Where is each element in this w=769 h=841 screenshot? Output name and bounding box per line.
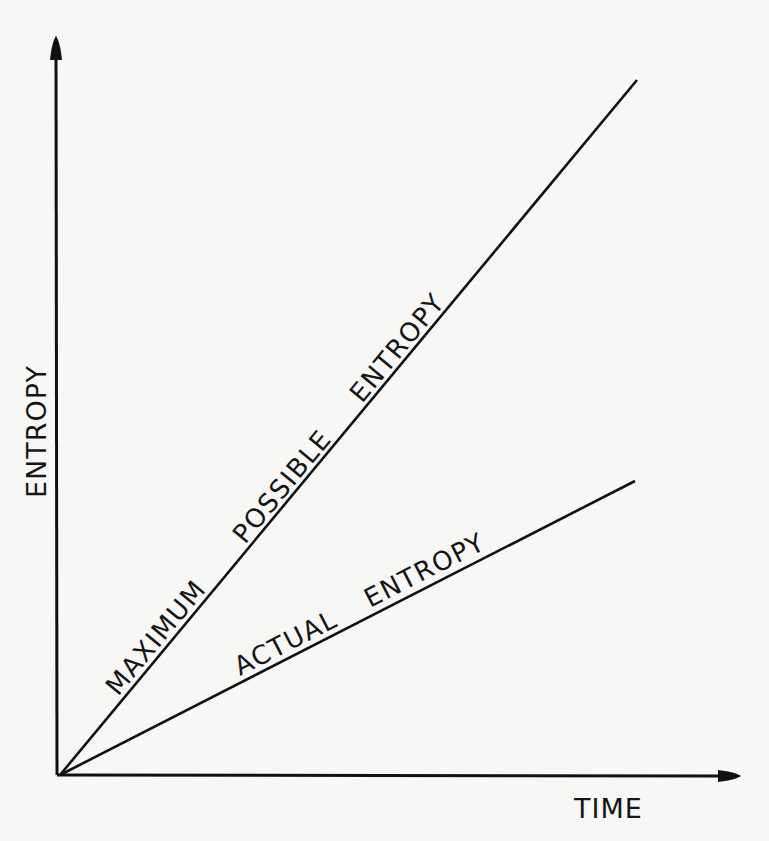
x-axis-arrow-icon xyxy=(718,770,741,782)
entropy-time-chart: ENTROPY TIME MAXIMUM POSSIBLE ENTROPY AC… xyxy=(0,0,769,841)
y-axis-arrow-icon xyxy=(50,36,62,60)
actual-line-label-actual: ACTUAL xyxy=(229,604,342,682)
max-line-label-maximum: MAXIMUM xyxy=(100,574,213,701)
y-axis-label: ENTROPY xyxy=(21,365,52,498)
x-axis-label: TIME xyxy=(573,793,643,824)
max-line-label-possible: POSSIBLE xyxy=(227,424,338,549)
x-axis-line xyxy=(57,775,724,776)
y-axis-line xyxy=(56,52,57,775)
x-axis xyxy=(57,770,741,782)
actual-line-label-entropy: ENTROPY xyxy=(359,527,490,614)
max-line-label-entropy: ENTROPY xyxy=(344,287,451,408)
